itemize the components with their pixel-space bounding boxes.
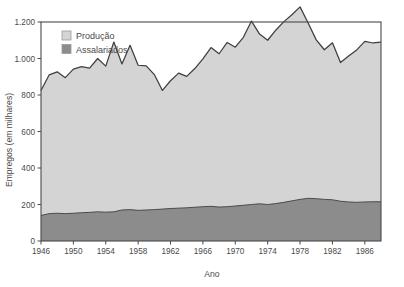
y-tick-label: 1.000 bbox=[15, 55, 36, 64]
y-tick-label: 800 bbox=[21, 91, 35, 100]
y-tick-label: 200 bbox=[21, 201, 35, 210]
legend-swatch-assalariados bbox=[62, 45, 71, 54]
legend-label-assalariados: Assalariados bbox=[76, 45, 128, 55]
x-tick-label: 1966 bbox=[194, 247, 213, 256]
employment-area-chart: 02004006008001.0001.200 1946195019541958… bbox=[0, 0, 404, 287]
legend-swatch-produção bbox=[62, 31, 71, 40]
x-tick-label: 1962 bbox=[161, 247, 180, 256]
x-tick-label: 1958 bbox=[129, 247, 148, 256]
x-axis-ticks: 1946195019541958196219661970197419781982… bbox=[32, 241, 374, 256]
x-tick-label: 1986 bbox=[356, 247, 375, 256]
x-axis-title: Ano bbox=[204, 269, 220, 279]
legend-label-produção: Produção bbox=[76, 31, 115, 41]
x-tick-label: 1950 bbox=[64, 247, 83, 256]
x-tick-label: 1974 bbox=[259, 247, 278, 256]
y-tick-label: 1.200 bbox=[15, 18, 36, 27]
x-tick-label: 1954 bbox=[97, 247, 116, 256]
y-tick-label: 600 bbox=[21, 128, 35, 137]
y-axis-title: Empregos (em milhares) bbox=[4, 93, 14, 187]
x-tick-label: 1946 bbox=[32, 247, 51, 256]
x-tick-label: 1978 bbox=[291, 247, 310, 256]
y-axis-ticks: 02004006008001.0001.200 bbox=[15, 18, 42, 246]
x-tick-label: 1970 bbox=[226, 247, 245, 256]
chart-container: 02004006008001.0001.200 1946195019541958… bbox=[0, 0, 404, 287]
y-tick-label: 400 bbox=[21, 164, 35, 173]
x-tick-label: 1982 bbox=[323, 247, 342, 256]
y-tick-label: 0 bbox=[30, 237, 35, 246]
